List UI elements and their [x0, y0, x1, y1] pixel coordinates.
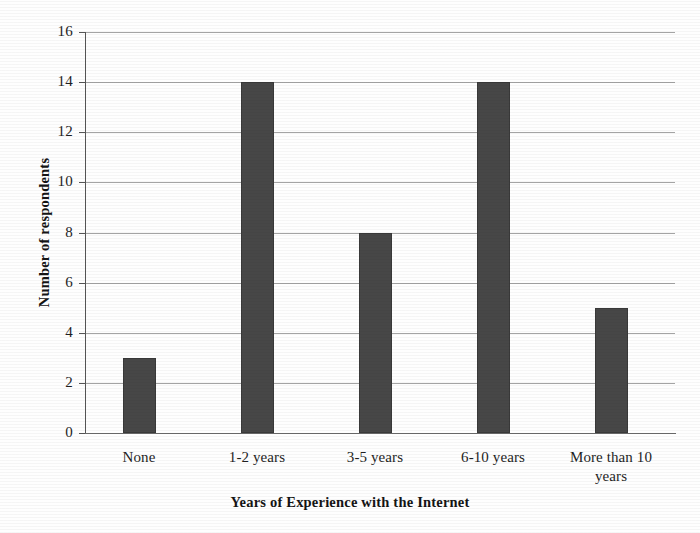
x-axis-line	[85, 433, 676, 434]
x-tick-label: 1-2 years	[197, 448, 317, 467]
x-axis-title: Years of Experience with the Internet	[0, 494, 700, 511]
y-axis-title: Number of respondents	[36, 103, 53, 363]
x-tick-label: 6-10 years	[433, 448, 553, 467]
bar[interactable]	[595, 308, 628, 433]
bar[interactable]	[241, 82, 274, 433]
plot-area	[85, 32, 675, 433]
bar[interactable]	[359, 233, 392, 434]
bar-chart-figure: 0246810121416 None1-2 years3-5 years6-10…	[0, 0, 700, 533]
y-tick-label: 16	[33, 24, 73, 39]
y-tick-label: 14	[33, 74, 73, 89]
x-tick-label: More than 10years	[551, 448, 671, 486]
y-tick-label: 0	[33, 425, 73, 440]
bar[interactable]	[123, 358, 156, 433]
x-tick-label: None	[79, 448, 199, 467]
x-tick-label: 3-5 years	[315, 448, 435, 467]
bar[interactable]	[477, 82, 510, 433]
y-tick-label: 2	[33, 375, 73, 390]
